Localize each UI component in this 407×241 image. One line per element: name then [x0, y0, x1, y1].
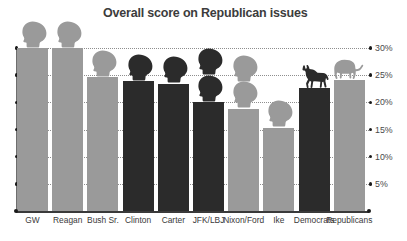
- president-head-icon-clinton-1: [127, 54, 153, 81]
- y-tick-dot-right-30: [369, 46, 372, 49]
- y-axis-label-30: 30%: [375, 43, 393, 53]
- president-head-icon-nixon-ford-2: [232, 55, 258, 82]
- x-axis-label-jfk-lbj: JFK/LBJ: [193, 215, 225, 225]
- y-axis-label-15: 15%: [375, 125, 393, 135]
- y-axis-label-25: 25%: [375, 70, 393, 80]
- bar-fill: [299, 88, 330, 211]
- president-head-icon-bush-sr-1: [91, 50, 117, 77]
- president-head-icon-carter-1: [162, 56, 188, 83]
- y-tick-dot-right-20: [369, 101, 372, 104]
- bar-fill: [123, 81, 154, 211]
- bar-fill: [193, 102, 224, 211]
- x-axis-label-reagan: Reagan: [53, 215, 82, 225]
- bar-democrats[interactable]: [299, 88, 330, 211]
- x-axis-label-ike: Ike: [273, 215, 284, 225]
- x-axis-label-clinton: Clinton: [125, 215, 151, 225]
- bar-fill: [17, 48, 48, 211]
- bar-fill: [334, 80, 365, 211]
- bar-fill: [52, 48, 83, 211]
- president-head-icon-ike-1: [267, 100, 293, 127]
- bar-clinton[interactable]: [123, 81, 154, 211]
- bar-carter[interactable]: [158, 84, 189, 211]
- president-head-icon-nixon-ford-1: [232, 81, 258, 108]
- y-tick-dot-right-15: [369, 128, 372, 131]
- bar-jfk-lbj[interactable]: [193, 102, 224, 211]
- president-head-icon-jfk-lbj-2: [197, 48, 223, 75]
- bar-fill: [158, 84, 189, 211]
- y-axis-label-5: 5%: [375, 179, 388, 189]
- x-axis-label-republicans: Republicans: [326, 215, 372, 225]
- president-head-icon-jfk-lbj-1: [197, 75, 223, 102]
- bar-reagan[interactable]: [52, 48, 83, 211]
- chart-root: Overall score on Republican issues 30%25…: [0, 0, 407, 241]
- bar-fill: [228, 109, 259, 211]
- y-tick-dot-right-25: [369, 73, 372, 76]
- axis-end-dot: [367, 209, 371, 213]
- x-axis-label-nixon-ford: Nixon/Ford: [223, 215, 264, 225]
- bar-nixon-ford[interactable]: [228, 109, 259, 211]
- y-tick-dot-right-5: [369, 182, 372, 185]
- president-head-icon-reagan-1: [56, 21, 82, 48]
- bar-ike[interactable]: [263, 128, 294, 211]
- bar-bush-sr[interactable]: [87, 77, 118, 211]
- bar-fill: [263, 128, 294, 211]
- elephant-icon: [333, 59, 367, 80]
- bar-republicans[interactable]: [334, 80, 365, 211]
- x-axis-label-bush-sr: Bush Sr.: [87, 215, 119, 225]
- y-tick-dot-right-10: [369, 155, 372, 158]
- president-head-icon-gw-1: [21, 21, 47, 48]
- y-axis-label-20: 20%: [375, 97, 393, 107]
- y-axis-label-10: 10%: [375, 152, 393, 162]
- x-axis-label-gw: GW: [25, 215, 39, 225]
- bar-fill: [87, 77, 118, 211]
- x-axis-label-carter: Carter: [162, 215, 185, 225]
- donkey-icon: [299, 65, 329, 88]
- bar-gw[interactable]: [17, 48, 48, 211]
